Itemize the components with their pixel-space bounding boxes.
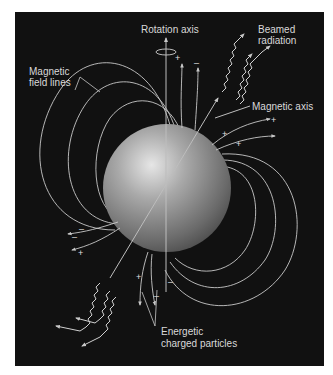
energetic-particles-label-1: Energetic bbox=[161, 326, 203, 337]
charge-minus: – bbox=[154, 291, 159, 301]
charge-plus: + bbox=[236, 139, 241, 149]
magnetic-axis-label: Magnetic axis bbox=[252, 101, 313, 112]
energetic-particles-label-2: charged particles bbox=[161, 338, 237, 349]
magnetic-field-lines-label-1: Magnetic bbox=[29, 66, 70, 77]
charge-minus: – bbox=[194, 58, 199, 68]
pulsar-diagram: + – + + + – – + + – – bbox=[0, 0, 333, 375]
charge-plus: + bbox=[222, 129, 227, 139]
charge-plus: + bbox=[271, 115, 276, 125]
beamed-radiation-label-2: radiation bbox=[258, 35, 296, 46]
charge-plus: + bbox=[136, 272, 141, 282]
beamed-radiation-label-1: Beamed bbox=[258, 24, 295, 35]
rotation-axis-label: Rotation axis bbox=[141, 24, 199, 35]
magnetic-field-lines-label-2: field lines bbox=[29, 77, 71, 88]
charge-minus: – bbox=[79, 224, 84, 234]
beamed-radiation-bottom bbox=[56, 283, 116, 346]
neutron-star bbox=[103, 124, 231, 252]
charge-minus: – bbox=[72, 232, 77, 242]
charge-plus: + bbox=[175, 53, 180, 63]
charge-minus: – bbox=[168, 277, 173, 287]
charge-plus: + bbox=[78, 248, 83, 258]
